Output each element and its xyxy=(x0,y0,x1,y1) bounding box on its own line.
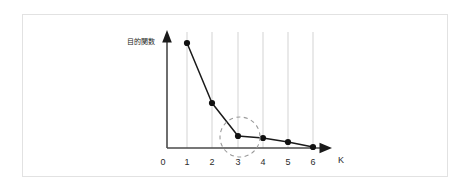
x-tick-label-5: 5 xyxy=(285,157,290,167)
x-tick-labels: 0 1 2 3 4 5 6 xyxy=(160,157,315,167)
x-tick-label-6: 6 xyxy=(310,157,315,167)
data-point-k4[interactable] xyxy=(260,135,266,141)
data-point-k6[interactable] xyxy=(310,144,316,150)
x-tick-label-3: 3 xyxy=(235,157,240,167)
x-tick-label-2: 2 xyxy=(209,157,214,167)
y-axis-label: 目的関数 xyxy=(127,37,155,46)
data-point-k1[interactable] xyxy=(184,40,190,46)
x-tick-label-4: 4 xyxy=(260,157,265,167)
x-tick-label-0: 0 xyxy=(160,157,165,167)
data-point-k5[interactable] xyxy=(285,139,291,145)
data-point-k2[interactable] xyxy=(209,100,215,106)
elbow-method-chart: 目的関数 K 0 1 2 3 4 5 6 xyxy=(0,0,471,191)
x-axis xyxy=(167,143,332,153)
x-tick-label-1: 1 xyxy=(184,157,189,167)
x-axis-label: K xyxy=(338,155,344,165)
data-point-markers xyxy=(184,40,316,150)
objective-function-line xyxy=(187,43,313,147)
y-axis-arrow-icon xyxy=(162,30,172,43)
x-axis-arrow-icon xyxy=(320,143,333,153)
y-axis xyxy=(162,30,172,148)
data-point-k3[interactable] xyxy=(235,133,241,139)
